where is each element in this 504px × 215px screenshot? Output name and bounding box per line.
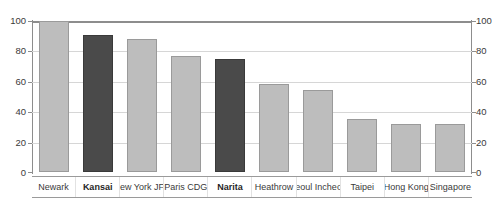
category-label-kansai: Kansai — [76, 177, 120, 197]
bar-singapore[interactable] — [435, 124, 465, 172]
category-label-hong-kong: Hong Kong — [385, 177, 429, 197]
bar-slot — [428, 20, 472, 172]
category-label-newark: Newark — [32, 177, 76, 197]
bar-slot — [120, 20, 164, 172]
bar-seoul-incheon[interactable] — [303, 90, 333, 172]
bar-slot — [296, 20, 340, 172]
bar-chart: 100 80 60 40 20 0 100 80 60 40 20 0 — [0, 0, 504, 215]
tickmark-right-60 — [472, 82, 476, 83]
tickmark-right-20 — [472, 143, 476, 144]
bar-newark[interactable] — [39, 21, 69, 172]
bar-series — [32, 20, 472, 172]
bar-paris-cdg[interactable] — [171, 56, 201, 172]
category-label-paris-cdg: Paris CDG — [164, 177, 208, 197]
bar-slot — [384, 20, 428, 172]
bar-new-york-jfk[interactable] — [127, 39, 157, 172]
category-label-new-york-jfk: New York JFK — [120, 177, 164, 197]
tickmark-right-100 — [472, 21, 476, 22]
category-label-seoul-incheon: Seoul Incheon — [297, 177, 341, 197]
category-label-taipei: Taipei — [341, 177, 385, 197]
category-label-row: NewarkKansaiNew York JFKParis CDGNaritaH… — [32, 176, 472, 198]
category-label-singapore: Singapore — [429, 177, 472, 197]
tickmark-right-40 — [472, 112, 476, 113]
bar-hong-kong[interactable] — [391, 124, 421, 172]
bar-slot — [76, 20, 120, 172]
category-label-narita: Narita — [208, 177, 252, 197]
bar-narita[interactable] — [215, 59, 245, 172]
bar-taipei[interactable] — [347, 119, 377, 172]
bar-slot — [340, 20, 384, 172]
bar-slot — [164, 20, 208, 172]
tickmark-right-80 — [472, 51, 476, 52]
bar-slot — [252, 20, 296, 172]
bar-slot — [32, 20, 76, 172]
bar-slot — [208, 20, 252, 172]
category-label-heathrow: Heathrow — [252, 177, 296, 197]
bar-heathrow[interactable] — [259, 84, 289, 172]
tickmark-left-0 — [28, 172, 32, 173]
bar-kansai[interactable] — [83, 35, 113, 172]
plot-area — [32, 21, 472, 173]
tickmark-right-0 — [472, 172, 476, 173]
